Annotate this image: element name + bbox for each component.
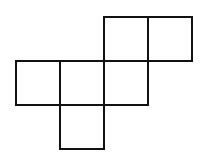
net-square-4 xyxy=(60,61,104,105)
cube-net-diagram xyxy=(0,0,204,159)
net-square-2 xyxy=(148,17,192,61)
net-square-1 xyxy=(104,17,148,61)
net-square-6 xyxy=(60,105,104,149)
net-square-5 xyxy=(104,61,148,105)
net-square-3 xyxy=(16,61,60,105)
